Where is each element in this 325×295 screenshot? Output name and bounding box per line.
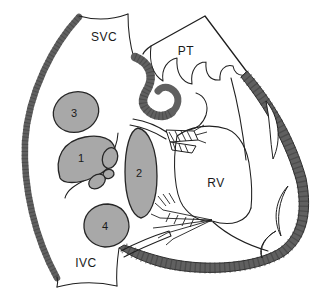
ivc-label: IVC: [75, 256, 97, 270]
hook-wall-curl: [158, 87, 178, 112]
wall-trabecula-upper: [266, 101, 278, 159]
wall-trabecula-middle: [276, 186, 288, 236]
interatrial-hook-wall: [135, 57, 178, 116]
site-3-label: 3: [71, 107, 77, 119]
rv-apex-line: [213, 222, 268, 251]
upper-chordae-band-2: [170, 142, 196, 153]
svc-top-edge: [79, 14, 128, 19]
heart-diagram-figure: SVC PT RV IVC 1 2 3 4: [0, 0, 325, 295]
pt-vessel: [143, 16, 247, 84]
conus-curve: [189, 93, 207, 130]
svc-label: SVC: [91, 30, 117, 44]
rv-label: RV: [207, 176, 224, 190]
pt-outline: [143, 16, 247, 72]
svc-right-edge: [128, 14, 134, 58]
papillary-spikes-top: [158, 193, 175, 206]
ivc-left-edge: [57, 277, 58, 287]
site-2-label: 2: [136, 167, 142, 179]
chordae-fan-rays: [160, 210, 212, 239]
site-4-label: 4: [102, 220, 108, 232]
infundibulum-line: [231, 78, 246, 160]
heart-diagram-canvas: SVC PT RV IVC 1 2 3 4: [0, 0, 325, 295]
site-1-label: 1: [78, 152, 84, 164]
ivc-right-edge: [117, 248, 119, 286]
pt-label: PT: [178, 44, 195, 58]
papillary-spikes-left: [151, 203, 173, 245]
ivc-bottom-edge: [57, 283, 117, 287]
pulmonary-valve-cusps: [151, 46, 245, 84]
